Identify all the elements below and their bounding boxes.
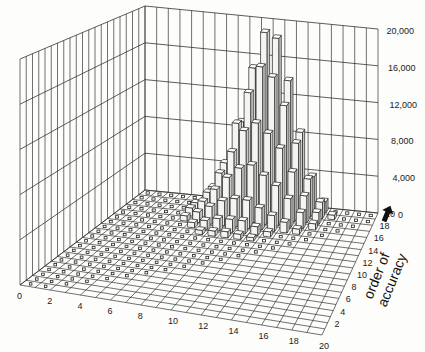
x-tick-label: 0 <box>17 291 22 301</box>
x-tick-label: 18 <box>289 336 299 346</box>
y-tick-label: 6 <box>346 294 351 304</box>
z-tick-label: 20,000 <box>387 26 415 36</box>
x-tick-label: 8 <box>138 311 143 321</box>
y-tick-label: 8 <box>351 282 356 292</box>
z-tick-label: 8,000 <box>391 136 414 146</box>
3d-bar-chart: 04,0008,00012,00016,00020,00002468101214… <box>0 0 425 352</box>
y-tick-label: 16 <box>374 233 384 243</box>
z-tick-label: 12,000 <box>390 100 418 110</box>
x-tick-label: 14 <box>228 326 238 336</box>
z-tick-label: 4,000 <box>393 173 416 183</box>
y-tick-label: 10 <box>357 270 367 280</box>
x-tick-label: 16 <box>259 331 269 341</box>
x-tick-label: 10 <box>168 316 178 326</box>
x-tick-label: 4 <box>77 301 82 311</box>
x-tick-label: 12 <box>198 321 208 331</box>
x-tick-label: 20 <box>319 341 329 351</box>
chart-bars <box>180 29 336 241</box>
y-tick-label: 2 <box>335 319 340 329</box>
x-tick-label: 6 <box>108 306 113 316</box>
y-tick-label: 18 <box>379 221 389 231</box>
y-axis-title: order of accuracy <box>359 245 410 309</box>
x-tick-label: 2 <box>47 296 52 306</box>
z-tick-label: 0 <box>398 210 403 220</box>
y-tick-label: 4 <box>340 307 345 317</box>
z-tick-label: 16,000 <box>388 63 416 73</box>
